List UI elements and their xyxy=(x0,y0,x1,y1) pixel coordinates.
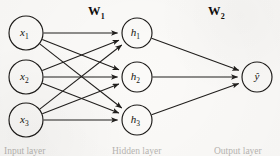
node-x3: x3 xyxy=(9,103,43,137)
caption-hidden-layer: Hidden layer xyxy=(112,146,161,156)
weight-label-w1: W1 xyxy=(88,4,105,21)
node-h2: h2 xyxy=(122,62,152,92)
edge-h3-yhat xyxy=(152,84,239,115)
node-yhat: ŷ xyxy=(242,62,272,92)
node-x1: x1 xyxy=(9,16,43,50)
node-h1: h1 xyxy=(122,18,152,48)
weight-label-w2: W2 xyxy=(208,4,225,21)
caption-input-layer: Input layer xyxy=(4,146,45,156)
edge-h1-yhat xyxy=(152,38,239,70)
node-x2: x2 xyxy=(9,60,43,94)
node-h3: h3 xyxy=(122,105,152,135)
figure-canvas: x1x2x3h1h2h3ŷ W1W2 Input layerHidden lay… xyxy=(0,0,280,156)
network-graph: x1x2x3h1h2h3ŷ xyxy=(0,0,280,156)
node-label-yhat: ŷ xyxy=(254,70,260,82)
caption-output-layer: Output layer xyxy=(214,146,262,156)
